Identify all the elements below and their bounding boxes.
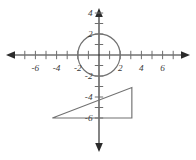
- x-axis-left-arrow-icon: [6, 51, 15, 59]
- y-axis-tick-label: -2: [85, 71, 93, 81]
- y-axis-tick-label: 2: [88, 29, 93, 39]
- y-axis-tick-label: -6: [85, 113, 93, 123]
- y-axis: [95, 8, 103, 152]
- y-axis-tick-label: 4: [88, 8, 93, 18]
- graph-canvas: -6-4-2246 42-2-4-6: [0, 0, 196, 160]
- x-axis-tick-label: -2: [74, 63, 82, 73]
- y-axis-down-arrow-icon: [95, 143, 103, 152]
- x-axis-tick-label: -4: [53, 63, 61, 73]
- x-axis-tick-label: 2: [118, 63, 123, 73]
- x-axis-tick-label: -6: [32, 63, 40, 73]
- y-axis-tick-labels: 42-2-4-6: [85, 8, 93, 123]
- coordinate-plane-figure: -6-4-2246 42-2-4-6: [0, 0, 196, 160]
- y-axis-tick-label: -4: [85, 92, 93, 102]
- x-axis-tick-label: 6: [160, 63, 165, 73]
- x-axis-tick-label: 4: [139, 63, 144, 73]
- x-axis-right-arrow-icon: [181, 51, 190, 59]
